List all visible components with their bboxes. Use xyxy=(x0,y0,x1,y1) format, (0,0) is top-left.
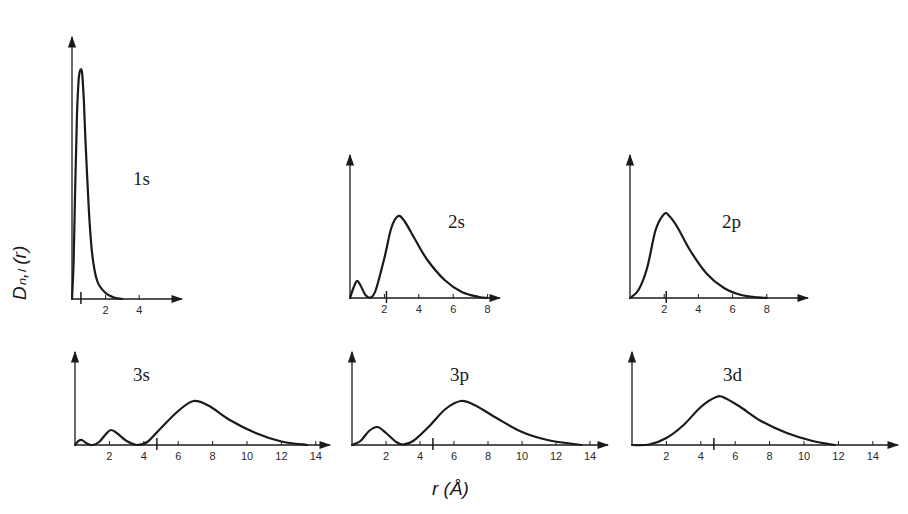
y-axis-label: Dₙ,ₗ (r) xyxy=(8,246,31,300)
distribution-curve-1s xyxy=(72,69,122,299)
x-axis-label: r (Å) xyxy=(432,478,469,500)
x-tick-label: 6 xyxy=(732,450,738,462)
x-tick-label: 12 xyxy=(832,450,844,462)
x-tick-label: 8 xyxy=(485,450,491,462)
x-tick-label: 12 xyxy=(550,450,562,462)
x-tick-label: 10 xyxy=(241,450,253,462)
x-tick-label: 4 xyxy=(695,303,701,315)
x-tick-label: 4 xyxy=(698,450,704,462)
radial-distribution-figure: 241s24682s24682p24681012143s24681012143p… xyxy=(0,0,908,514)
panel-2p: 24682p xyxy=(630,155,808,315)
orbital-label-3p: 3p xyxy=(450,364,469,385)
orbital-label-3s: 3s xyxy=(133,364,150,385)
x-tick-label: 14 xyxy=(310,450,322,462)
panel-2s: 24682s xyxy=(350,155,500,315)
panel-1s: 241s xyxy=(72,37,182,316)
x-tick-label: 4 xyxy=(416,303,422,315)
x-tick-label: 4 xyxy=(136,304,142,316)
x-tick-label: 8 xyxy=(764,303,770,315)
x-tick-label: 14 xyxy=(584,450,596,462)
x-tick-label: 6 xyxy=(175,450,181,462)
x-tick-label: 12 xyxy=(275,450,287,462)
distribution-curve-3s xyxy=(75,401,307,445)
distribution-curve-2p xyxy=(630,213,767,298)
x-tick-label: 6 xyxy=(451,450,457,462)
x-tick-label: 8 xyxy=(210,450,216,462)
orbital-label-1s: 1s xyxy=(133,168,150,189)
orbital-label-2s: 2s xyxy=(448,211,465,232)
x-tick-label: 2 xyxy=(663,450,669,462)
x-tick-label: 2 xyxy=(106,450,112,462)
x-tick-label: 4 xyxy=(417,450,423,462)
panel-3s: 24681012143s xyxy=(75,352,330,462)
distribution-curve-2s xyxy=(350,216,488,298)
panel-3d: 24681012143d xyxy=(632,352,898,462)
x-tick-label: 8 xyxy=(485,303,491,315)
x-tick-label: 6 xyxy=(450,303,456,315)
x-tick-label: 6 xyxy=(730,303,736,315)
x-tick-label: 10 xyxy=(798,450,810,462)
x-tick-label: 2 xyxy=(383,450,389,462)
distribution-curve-3p xyxy=(352,401,582,445)
orbital-label-3d: 3d xyxy=(723,364,743,385)
x-tick-label: 10 xyxy=(516,450,528,462)
x-tick-label: 2 xyxy=(381,303,387,315)
x-tick-label: 2 xyxy=(661,303,667,315)
panel-3p: 24681012143p xyxy=(352,352,608,462)
x-tick-label: 8 xyxy=(767,450,773,462)
distribution-curve-3d xyxy=(632,396,835,445)
x-tick-label: 2 xyxy=(103,304,109,316)
x-tick-label: 14 xyxy=(867,450,879,462)
orbital-label-2p: 2p xyxy=(722,211,741,232)
x-tick-label: 4 xyxy=(141,450,147,462)
